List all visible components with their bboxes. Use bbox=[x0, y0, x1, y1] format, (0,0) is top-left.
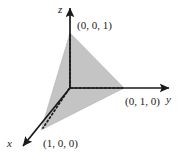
point-label-001: (0, 0, 1) bbox=[77, 20, 112, 31]
shaded-triangle-region bbox=[41, 33, 124, 130]
y-axis-label: y bbox=[166, 94, 171, 105]
z-axis-label: z bbox=[58, 4, 62, 15]
point-label-010: (0, 1, 0) bbox=[125, 96, 160, 107]
point-label-100: (1, 0, 0) bbox=[43, 138, 78, 149]
coordinate-plane-figure: z y x (0, 0, 1) (0, 1, 0) (1, 0, 0) bbox=[0, 0, 181, 162]
x-axis-label: x bbox=[7, 138, 12, 149]
